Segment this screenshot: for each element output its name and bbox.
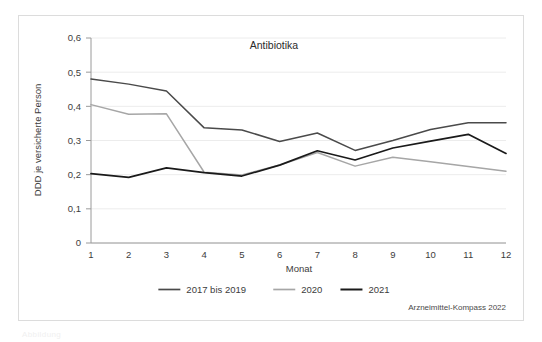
x-axis-tick-label: 7 bbox=[315, 249, 320, 260]
legend-label: 2017 bis 2019 bbox=[186, 284, 246, 295]
line-chart: 00,10,20,30,40,50,6 123456789101112 DDD … bbox=[19, 16, 523, 320]
y-axis-title: DDD je versicherte Person bbox=[32, 84, 43, 196]
x-axis-title: Monat bbox=[286, 263, 313, 274]
legend-label: 2021 bbox=[368, 284, 389, 295]
chart-frame: 00,10,20,30,40,50,6 123456789101112 DDD … bbox=[18, 15, 524, 321]
caption-fragment: Abbildung bbox=[22, 330, 61, 339]
x-axis-tick-label: 9 bbox=[390, 249, 395, 260]
y-axis-tick-label: 0,3 bbox=[68, 135, 81, 146]
y-axis-tick-label: 0 bbox=[76, 237, 81, 248]
chart-title: Antibiotika bbox=[250, 39, 299, 51]
x-axis-tick-labels: 123456789101112 bbox=[88, 249, 511, 260]
x-axis-tick-label: 8 bbox=[352, 249, 357, 260]
gridlines bbox=[91, 38, 506, 243]
x-axis-tick-label: 3 bbox=[164, 249, 169, 260]
y-axis-tick-label: 0,6 bbox=[68, 32, 81, 43]
legend-label: 2020 bbox=[301, 284, 322, 295]
x-axis-tick-label: 11 bbox=[463, 249, 473, 260]
y-axis-tick-labels: 00,10,20,30,40,50,6 bbox=[68, 32, 81, 248]
chart-legend: 2017 bis 201920202021 bbox=[158, 284, 389, 295]
x-axis-tick-label: 2 bbox=[126, 249, 131, 260]
y-axis-ticks bbox=[86, 38, 91, 243]
y-axis-tick-label: 0,4 bbox=[68, 101, 81, 112]
y-axis-tick-label: 0,5 bbox=[68, 67, 81, 78]
source-note: Arzneimittel-Kompass 2022 bbox=[408, 303, 506, 312]
x-axis-tick-label: 12 bbox=[501, 249, 512, 260]
x-axis-tick-label: 1 bbox=[88, 249, 93, 260]
figure-container: 00,10,20,30,40,50,6 123456789101112 DDD … bbox=[0, 0, 542, 342]
y-axis-tick-label: 0,1 bbox=[68, 203, 81, 214]
series-lines bbox=[91, 79, 506, 177]
x-axis-tick-label: 4 bbox=[202, 249, 207, 260]
x-axis-tick-label: 10 bbox=[425, 249, 436, 260]
x-axis-tick-label: 5 bbox=[239, 249, 244, 260]
series-line bbox=[91, 105, 506, 175]
y-axis-tick-label: 0,2 bbox=[68, 169, 81, 180]
x-axis-tick-label: 6 bbox=[277, 249, 282, 260]
